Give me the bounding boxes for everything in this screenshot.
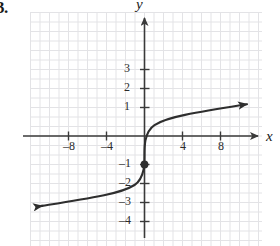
- x-tick-label-4: 4: [174, 139, 192, 154]
- y-tick-label-3: 3: [118, 61, 136, 76]
- x-tick-label-8: 8: [212, 139, 230, 154]
- grid-lines: [30, 12, 262, 246]
- y-tick-label-2: 2: [118, 80, 136, 95]
- x-axis-label: x: [266, 128, 273, 145]
- plotted-point: [141, 161, 149, 169]
- y-tick-label-neg4: –4: [114, 213, 136, 228]
- y-tick-label-neg3: –3: [114, 194, 136, 209]
- x-tick-label-neg8: –8: [59, 139, 79, 154]
- y-tick-label-1: 1: [118, 99, 136, 114]
- figure-panel: 3.: [0, 0, 280, 246]
- y-axis-label: y: [136, 0, 143, 13]
- y-tick-label-neg1: –1: [114, 156, 136, 171]
- curve-left-arrow-segment: [37, 206, 42, 207]
- x-tick-label-neg4: –4: [97, 139, 117, 154]
- y-tick-label-neg2: –2: [114, 175, 136, 190]
- coordinate-plane: [0, 0, 280, 246]
